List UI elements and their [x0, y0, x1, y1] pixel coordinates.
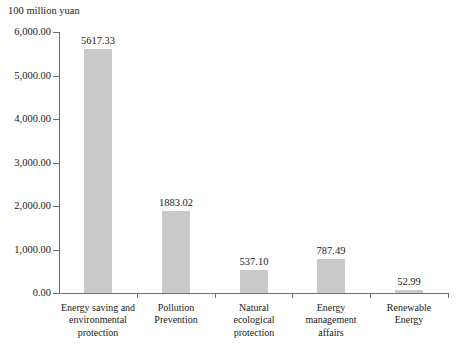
- y-axis-tick-label-wrap: 2,000.00: [0, 200, 51, 211]
- x-axis-line: [59, 293, 448, 294]
- y-axis-tick-label-wrap: 4,000.00: [0, 113, 51, 124]
- category-label-line: Pollution: [131, 302, 221, 314]
- y-axis-tick: [53, 206, 59, 207]
- y-axis-tick-label: 1,000.00: [0, 244, 51, 255]
- bar: [84, 49, 112, 293]
- bar: [395, 290, 423, 293]
- y-axis-tick-label: 4,000.00: [0, 113, 51, 124]
- x-axis-tick: [370, 293, 371, 298]
- category-label-line: Energy: [286, 302, 376, 314]
- bar-value-label: 787.49: [301, 245, 361, 257]
- bar-value-label: 52.99: [379, 276, 439, 288]
- bar-value-label: 1883.02: [146, 197, 206, 209]
- x-axis-tick: [292, 293, 293, 298]
- bar-value-label: 5617.33: [68, 35, 128, 47]
- y-axis-tick-label-wrap: 3,000.00: [0, 157, 51, 168]
- y-axis-tick-label: 5,000.00: [0, 70, 51, 81]
- y-axis-tick: [53, 250, 59, 251]
- category-label-line: environmental: [53, 314, 143, 326]
- y-axis-line: [59, 32, 60, 294]
- x-axis-tick: [215, 293, 216, 298]
- x-axis-category-label: PollutionPrevention: [131, 302, 221, 327]
- y-axis-tick: [53, 293, 59, 294]
- y-axis-unit-label: 100 million yuan: [8, 4, 80, 17]
- category-label-line: protection: [53, 327, 143, 339]
- bar-value-label: 537.10: [224, 256, 284, 268]
- y-axis-tick-label-wrap: 1,000.00: [0, 244, 51, 255]
- y-axis-tick-label-wrap: 0.00: [0, 287, 51, 298]
- category-label-line: Prevention: [131, 314, 221, 326]
- category-label-line: Energy saving and: [53, 302, 143, 314]
- bar: [240, 270, 268, 293]
- y-axis-tick-label: 3,000.00: [0, 157, 51, 168]
- y-axis-tick: [53, 119, 59, 120]
- bar-chart: 100 million yuan 0.001,000.002,000.003,0…: [0, 0, 459, 348]
- x-axis-tick: [137, 293, 138, 298]
- category-label-line: affairs: [286, 327, 376, 339]
- y-axis-tick-label-wrap: 5,000.00: [0, 70, 51, 81]
- x-axis-category-label: Energymanagementaffairs: [286, 302, 376, 339]
- y-axis-tick-label: 2,000.00: [0, 200, 51, 211]
- bar: [317, 259, 345, 293]
- category-label-line: management: [286, 314, 376, 326]
- category-label-line: Renewable: [364, 302, 454, 314]
- y-axis-tick: [53, 32, 59, 33]
- y-axis-tick-label: 6,000.00: [0, 26, 51, 37]
- category-label-line: Energy: [364, 314, 454, 326]
- x-axis-tick: [448, 293, 449, 298]
- y-axis-tick-label-wrap: 6,000.00: [0, 26, 51, 37]
- x-axis-category-label: RenewableEnergy: [364, 302, 454, 327]
- bar: [162, 211, 190, 293]
- y-axis-tick-label: 0.00: [0, 287, 51, 298]
- y-axis-tick: [53, 163, 59, 164]
- y-axis-tick: [53, 76, 59, 77]
- x-axis-category-label: Energy saving andenvironmentalprotection: [53, 302, 143, 339]
